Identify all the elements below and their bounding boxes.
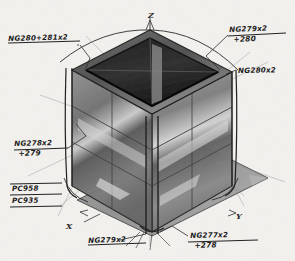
ul-pc935-bottom bbox=[10, 206, 62, 207]
annotation-pc958: PC958 bbox=[12, 184, 39, 193]
annotation-line1: NG279x2 bbox=[88, 235, 126, 245]
annotation-top-right: NG279x2 +280 bbox=[229, 24, 268, 44]
annotation-line1: NG278x2 bbox=[14, 138, 52, 148]
sketch-sheet: Z Y X NG280+281x2 NG279x2 +280 NG280x2 N… bbox=[0, 0, 295, 261]
annotation-bottom-right: NG277x2 +278 bbox=[190, 230, 228, 250]
axis-label-x: X bbox=[66, 221, 72, 231]
annotation-pc935: PC935 bbox=[12, 196, 39, 205]
annotation-left: NG278x2 +279 bbox=[14, 138, 52, 158]
annotation-line1: NG280+281x2 bbox=[8, 32, 68, 43]
annotation-line1: NG280x2 bbox=[238, 65, 276, 75]
annotation-top-left: NG280+281x2 bbox=[8, 32, 68, 43]
annotation-line1: PC935 bbox=[12, 196, 39, 205]
annotation-bottom-left: NG279x2 bbox=[88, 235, 126, 245]
annotation-line1: PC958 bbox=[12, 184, 39, 193]
axis-label-z: Z bbox=[148, 10, 154, 20]
y-arrow bbox=[228, 210, 236, 216]
axis-label-y: Y bbox=[236, 211, 242, 221]
annotation-line1: NG279x2 bbox=[229, 24, 267, 34]
top-inner-divider bbox=[152, 44, 162, 104]
annotation-right: NG280x2 bbox=[238, 65, 276, 75]
annotation-line2: +278 bbox=[190, 240, 228, 250]
annotation-line1: NG277x2 bbox=[190, 230, 228, 240]
annotation-line2: +279 bbox=[14, 148, 52, 158]
annotation-line2: +280 bbox=[229, 34, 267, 44]
x-arrow bbox=[80, 210, 88, 216]
vertex-burst bbox=[126, 232, 170, 250]
